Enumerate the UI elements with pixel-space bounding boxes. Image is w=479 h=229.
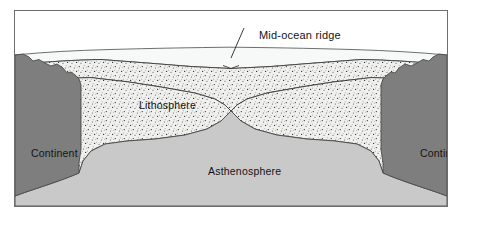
label-continent-left: Continent [31, 148, 78, 159]
label-mid-ocean-ridge: Mid-ocean ridge [259, 30, 341, 41]
continent-right-block [381, 54, 447, 196]
label-continent-right: Continent [420, 148, 448, 159]
diagram-frame: Mid-ocean ridge Lithosphere Asthenospher… [14, 10, 448, 207]
label-lithosphere: Lithosphere [139, 100, 196, 111]
continent-left-block [15, 54, 81, 196]
label-asthenosphere: Asthenosphere [208, 166, 281, 177]
figure-root: Mid-ocean ridge Lithosphere Asthenospher… [0, 0, 479, 229]
